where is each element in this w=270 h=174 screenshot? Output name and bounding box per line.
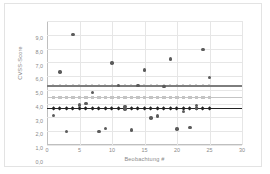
reference-line-marker [149, 84, 153, 87]
reference-line-marker [65, 96, 69, 100]
data-point [91, 91, 94, 94]
reference-line-marker [104, 96, 108, 100]
y-tick-label: 4,0 [9, 104, 43, 110]
data-point [149, 116, 152, 119]
gridline-vertical [112, 21, 113, 145]
data-point [162, 85, 165, 88]
x-tick-label: 25 [200, 147, 220, 154]
data-point [58, 70, 61, 73]
reference-line-marker [130, 96, 134, 100]
reference-line-marker [188, 96, 192, 100]
reference-line-marker [207, 84, 211, 87]
gridline-vertical [80, 21, 81, 145]
reference-line-marker [175, 84, 179, 87]
reference-line-marker [208, 96, 212, 100]
y-tick-label: 3,0 [9, 118, 43, 124]
reference-line-marker [169, 96, 173, 100]
reference-line-marker [64, 84, 68, 87]
reference-line-marker [90, 84, 94, 87]
reference-line-marker [110, 84, 114, 87]
data-point [97, 130, 100, 133]
reference-line-marker [117, 96, 121, 100]
reference-line-marker [201, 96, 205, 100]
x-tick-label: 10 [102, 147, 122, 154]
x-tick-label: 30 [232, 147, 252, 154]
reference-line-marker [168, 84, 172, 87]
gridline-vertical [242, 21, 243, 145]
data-point [71, 33, 74, 36]
reference-line-marker [149, 96, 153, 100]
reference-line-marker [51, 84, 55, 87]
reference-line-marker [143, 96, 147, 100]
y-axis-line [47, 21, 48, 145]
reference-line-marker [155, 106, 160, 111]
reference-line-marker [195, 96, 199, 100]
reference-line-marker [78, 96, 82, 100]
reference-line-marker [84, 96, 88, 100]
y-tick-label: 2,0 [9, 131, 43, 137]
data-point [208, 76, 211, 79]
reference-line-marker [71, 84, 75, 87]
reference-line-marker [90, 106, 95, 111]
data-point [169, 57, 172, 60]
reference-line-marker [207, 106, 212, 111]
reference-line-marker [77, 84, 81, 87]
reference-line-marker [201, 84, 205, 87]
reference-line-marker [58, 84, 62, 87]
reference-line-marker [58, 96, 62, 100]
data-point [201, 48, 204, 51]
y-tick-label: 7,0 [9, 63, 43, 69]
data-point [123, 107, 126, 110]
reference-line-marker [142, 84, 146, 87]
reference-line-marker [182, 96, 186, 100]
reference-line-marker [103, 84, 107, 87]
x-tick-label: 20 [167, 147, 187, 154]
reference-line-marker [136, 96, 140, 100]
reference-line-marker [168, 106, 173, 111]
reference-line-marker [110, 96, 114, 100]
reference-line-marker [51, 106, 56, 111]
reference-line-marker [188, 84, 192, 87]
reference-line-marker [64, 106, 69, 111]
reference-line-marker [181, 84, 185, 87]
reference-line-marker [71, 96, 75, 100]
plot-area [47, 21, 242, 145]
y-tick-label: 9,0 [9, 35, 43, 41]
reference-line-marker [175, 96, 179, 100]
chart-frame: CVSS-Score Beobachtung # 0,01,02,03,04,0… [4, 3, 262, 167]
data-point [84, 102, 87, 105]
reference-line-marker [84, 84, 88, 87]
y-tick-label: 0,0 [9, 159, 43, 165]
gridline-horizontal [47, 145, 242, 146]
reference-line-marker [91, 96, 95, 100]
reference-line-marker [123, 96, 127, 100]
data-point [130, 128, 133, 131]
data-point [65, 130, 68, 133]
gridline-vertical [177, 21, 178, 145]
x-axis-ticks: 051015202530 [47, 147, 242, 155]
reference-line-marker [123, 84, 127, 87]
reference-line-marker [77, 106, 82, 111]
data-point [110, 61, 113, 64]
reference-line-marker [52, 96, 56, 100]
reference-line-marker [194, 84, 198, 87]
reference-line-marker [129, 84, 133, 87]
y-tick-label: 6,0 [9, 76, 43, 82]
gridline-vertical [145, 21, 146, 145]
data-point [104, 127, 107, 130]
reference-line-marker [156, 96, 160, 100]
y-tick-label: 8,0 [9, 49, 43, 55]
data-point [156, 114, 159, 117]
reference-line-marker [162, 96, 166, 100]
y-axis-ticks: 0,01,02,03,04,05,06,07,08,09,0 [9, 21, 43, 145]
x-tick-label: 0 [37, 147, 57, 154]
reference-line-marker [103, 106, 108, 111]
reference-line-marker [116, 106, 121, 111]
gridline-vertical [210, 21, 211, 145]
reference-line-marker [142, 106, 147, 111]
data-point [182, 110, 185, 113]
data-point [188, 126, 191, 129]
reference-line-marker [97, 84, 101, 87]
y-tick-label: 5,0 [9, 90, 43, 96]
data-point [78, 103, 81, 106]
